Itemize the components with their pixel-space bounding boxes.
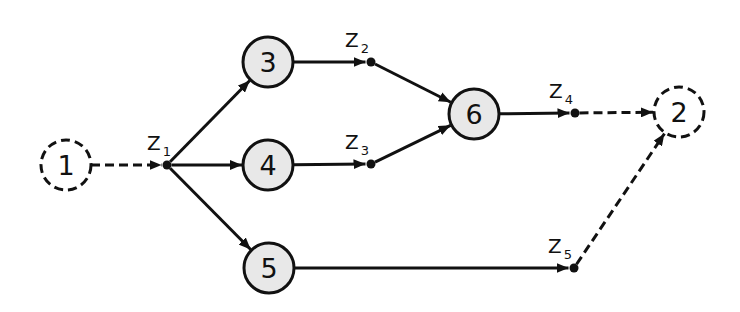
junction-label: Z5 [548,234,572,262]
edge-4-to-Z3 [293,164,366,165]
node-label: 3 [259,47,276,78]
node-4: 4 [243,140,293,190]
node-label: 1 [57,150,74,181]
network-diagram: 134562 Z1Z2Z3Z4Z5 [0,0,740,312]
junction-label: Z2 [345,28,369,56]
node-label: 6 [465,99,482,130]
edge-Z2-to-6 [375,64,451,102]
junction-dot [570,264,579,273]
junction-dot [571,109,580,118]
node-label: 4 [259,150,276,181]
edge-6-to-Z4 [499,113,570,114]
junction-dot [163,161,172,170]
junctions-layer: Z1Z2Z3Z4Z5 [147,28,580,273]
junction-dot [367,58,376,67]
node-2: 2 [654,87,704,137]
edge-Z1-to-3 [170,81,250,162]
node-3: 3 [243,37,293,87]
junction-label: Z3 [345,130,369,158]
junction-label: Z1 [147,131,171,159]
node-1: 1 [41,140,91,190]
node-5: 5 [244,243,294,293]
edges-layer [91,62,664,268]
edge-Z1-to-5 [170,168,251,249]
node-6: 6 [449,89,499,139]
edge-Z5-to-2 [577,134,665,265]
junction-label: Z4 [549,79,573,107]
node-label: 2 [670,97,687,128]
edge-Z4-to-2 [579,112,653,113]
edge-Z3-to-6 [375,125,451,162]
node-label: 5 [260,253,277,284]
junction-dot [367,160,376,169]
